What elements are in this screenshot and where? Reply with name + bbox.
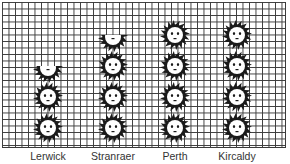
sun-icon [160,51,190,81]
sun-icon [222,113,252,143]
sun-icon [98,51,128,81]
sun-icon [98,82,128,112]
sun-icon [98,113,128,143]
sun-icon [160,113,190,143]
category-label-stranraer: Stranraer [91,150,135,162]
sun-icon [222,20,252,50]
sun-icon [160,82,190,112]
sun-icon [33,113,63,143]
category-label-lerwick: Lerwick [30,150,66,162]
sun-icon [33,53,63,83]
sun-icon [222,51,252,81]
sunshine-pictogram-chart: Lerwick Stranraer Perth Kircaldy [0,0,290,164]
sun-icon [33,82,63,112]
sun-icon [98,22,128,52]
sun-icon [160,20,190,50]
sun-icons-layer [0,0,290,164]
sun-icon [222,82,252,112]
category-label-perth: Perth [162,150,187,162]
category-label-kircaldy: Kircaldy [218,150,255,162]
